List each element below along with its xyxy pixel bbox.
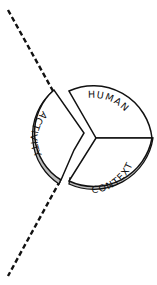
dashed-divider-top (8, 10, 53, 91)
dashed-divider-bottom (8, 181, 60, 276)
human-context-body: HUMAN CONTEXT (69, 86, 153, 195)
activity-human-context-diagram: ACTIVITY HUMAN CONTEXT (0, 0, 157, 285)
